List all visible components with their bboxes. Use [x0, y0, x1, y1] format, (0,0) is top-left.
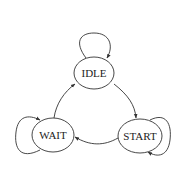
state-diagram: IDLE START WAIT	[0, 0, 189, 169]
node-wait: WAIT	[32, 118, 74, 152]
node-wait-label: WAIT	[39, 129, 67, 141]
node-idle: IDLE	[74, 57, 114, 89]
node-start: START	[118, 119, 162, 153]
edge-idle-idle	[80, 33, 111, 58]
node-idle-label: IDLE	[81, 67, 106, 79]
node-start-label: START	[123, 130, 157, 142]
edge-start-wait	[75, 137, 118, 144]
edge-idle-start	[114, 84, 136, 118]
edge-wait-idle	[54, 84, 75, 118]
